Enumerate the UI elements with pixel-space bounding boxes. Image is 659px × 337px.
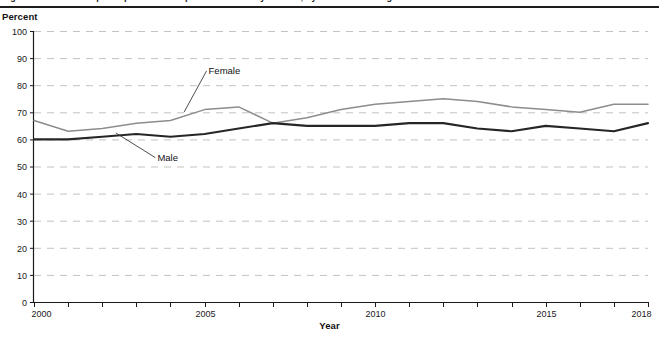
- chart-page: Figure 1. Labor force participation rate…: [0, 0, 659, 337]
- x-tick-label-2000: 2000: [32, 309, 52, 319]
- series-label-male: Male: [157, 152, 178, 163]
- y-tick-label-40: 40: [17, 190, 27, 200]
- leader-line-female: [184, 71, 206, 112]
- series-label-female: Female: [209, 65, 241, 76]
- gridline-group: [34, 32, 648, 276]
- y-tick-label-70: 70: [17, 108, 27, 118]
- y-tick-label-10: 10: [17, 271, 27, 281]
- y-tick-label-group: 0102030405060708090100: [12, 27, 27, 308]
- y-tick-label-50: 50: [17, 162, 27, 172]
- data-series-group: [34, 99, 648, 140]
- y-tick-label-100: 100: [12, 27, 27, 37]
- y-tick-label-60: 60: [17, 135, 27, 145]
- x-tick-label-group: 20002005201020152018: [32, 309, 652, 319]
- x-tick-label-2010: 2010: [365, 309, 385, 319]
- y-tick-label-20: 20: [17, 244, 27, 254]
- plot-area: 0102030405060708090100 20002005201020152…: [0, 0, 659, 337]
- x-tick-label-2018: 2018: [631, 309, 651, 319]
- y-tick-label-80: 80: [17, 81, 27, 91]
- y-tick-label-0: 0: [22, 298, 27, 308]
- leader-line-male: [116, 133, 156, 158]
- line-chart-svg: 0102030405060708090100 20002005201020152…: [0, 0, 659, 337]
- x-tick-label-2005: 2005: [195, 309, 215, 319]
- series-line-male: [34, 123, 648, 139]
- x-tick-label-2015: 2015: [536, 309, 556, 319]
- y-tick-label-30: 30: [17, 217, 27, 227]
- y-tick-label-90: 90: [17, 54, 27, 64]
- series-annotation-group: FemaleMale: [116, 65, 240, 163]
